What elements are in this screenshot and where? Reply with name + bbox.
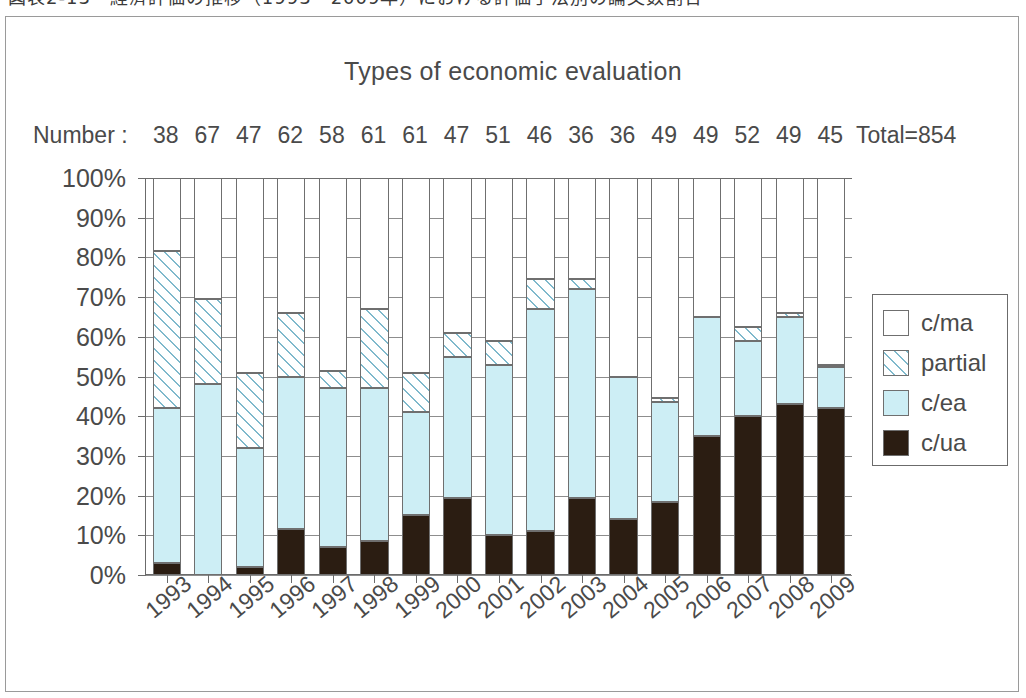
bar-segment-partial <box>319 371 347 389</box>
number-row-values: 3867476258616147514636364949524945 <box>145 122 851 152</box>
y-axis-tick-label: 70% <box>76 283 126 312</box>
bar-segment-c-ea <box>609 377 637 520</box>
stacked-bar[interactable] <box>776 178 804 575</box>
bar-segment-c-ea <box>153 408 181 563</box>
stacked-bar[interactable] <box>153 178 181 575</box>
bar-segment-partial <box>443 333 471 357</box>
stacked-bar[interactable] <box>651 178 679 575</box>
bar-segment-c-ea <box>360 388 388 541</box>
stacked-bar[interactable] <box>236 178 264 575</box>
bar-slot <box>229 178 271 575</box>
sample-size-value: 38 <box>145 122 187 152</box>
legend-swatch-icon <box>883 430 909 456</box>
stacked-bar[interactable] <box>817 178 845 575</box>
bar-segment-c-ma <box>402 178 430 373</box>
chart-title: Types of economic evaluation <box>0 57 1026 86</box>
bar-segment-c-ea <box>277 377 305 530</box>
figure-caption-text: 図表2-13 経済評価の推移（1993～2009年）における評価手法別の論文数割… <box>8 0 703 9</box>
bar-segment-c-ma <box>443 178 471 333</box>
bar-slot <box>811 178 853 575</box>
bar-segment-c-ma <box>693 178 721 317</box>
bar-segment-c-ma <box>319 178 347 371</box>
bar-segment-c-ua <box>609 519 637 575</box>
bar-slot <box>520 178 562 575</box>
y-axis-tick-label: 60% <box>76 322 126 351</box>
sample-size-value: 61 <box>394 122 436 152</box>
bar-segment-c-ua <box>360 541 388 575</box>
sample-size-value: 45 <box>810 122 852 152</box>
number-row-label: Number : <box>33 122 128 149</box>
legend-swatch-icon <box>883 390 909 416</box>
bar-segment-c-ua <box>651 502 679 575</box>
legend-item-c-ea[interactable]: c/ea <box>883 383 1007 423</box>
stacked-bar[interactable] <box>485 178 513 575</box>
sample-size-row: Number : 3867476258616147514636364949524… <box>0 122 1026 152</box>
bar-segment-partial <box>485 341 513 365</box>
bar-slot <box>644 178 686 575</box>
stacked-bar[interactable] <box>443 178 471 575</box>
stacked-bar[interactable] <box>568 178 596 575</box>
bar-segment-c-ma <box>194 178 222 299</box>
sample-size-value: 67 <box>187 122 229 152</box>
legend-item-partial[interactable]: partial <box>883 343 1007 383</box>
sample-size-value: 36 <box>602 122 644 152</box>
stacked-bar[interactable] <box>194 178 222 575</box>
sample-size-value: 49 <box>768 122 810 152</box>
sample-size-value: 47 <box>228 122 270 152</box>
bar-segment-partial <box>526 279 554 309</box>
x-axis-slot: 2000 <box>436 575 478 645</box>
y-axis-tick-label: 100% <box>62 164 126 193</box>
bar-segment-c-ea <box>402 412 430 515</box>
legend-item-c-ma[interactable]: c/ma <box>883 303 1007 343</box>
x-axis-slot: 2008 <box>768 575 810 645</box>
sample-size-value: 58 <box>311 122 353 152</box>
bar-slot <box>188 178 230 575</box>
bar-segment-c-ea <box>693 317 721 436</box>
bar-segment-c-ea <box>568 289 596 497</box>
bar-segment-c-ua <box>776 404 804 575</box>
stacked-bar[interactable] <box>609 178 637 575</box>
x-axis-slot: 1994 <box>187 575 229 645</box>
legend-label: partial <box>921 349 986 377</box>
sample-size-value: 62 <box>270 122 312 152</box>
x-axis-slot: 2002 <box>519 575 561 645</box>
stacked-bar[interactable] <box>277 178 305 575</box>
stacked-bar[interactable] <box>526 178 554 575</box>
bar-segment-c-ea <box>817 367 845 409</box>
x-axis-slot: 2005 <box>643 575 685 645</box>
stacked-bar[interactable] <box>319 178 347 575</box>
stacked-bar[interactable] <box>360 178 388 575</box>
bar-segment-c-ua <box>485 535 513 575</box>
sample-size-value: 49 <box>685 122 727 152</box>
bar-segment-partial <box>776 313 804 317</box>
bar-segment-c-ua <box>817 408 845 575</box>
bar-slot <box>312 178 354 575</box>
stacked-bar[interactable] <box>402 178 430 575</box>
figure-caption-strip: 図表2-13 経済評価の推移（1993～2009年）における評価手法別の論文数割… <box>0 0 1026 14</box>
bar-segment-partial <box>817 365 845 367</box>
stacked-bar[interactable] <box>734 178 762 575</box>
sample-size-value: 51 <box>477 122 519 152</box>
bar-segment-c-ma <box>817 178 845 365</box>
bar-segment-partial <box>360 309 388 388</box>
legend-swatch-icon <box>883 310 909 336</box>
bar-segment-c-ea <box>319 388 347 547</box>
y-axis-tick-label: 10% <box>76 521 126 550</box>
bar-segment-c-ma <box>651 178 679 398</box>
y-axis-tick-label: 20% <box>76 481 126 510</box>
bar-segment-c-ua <box>443 498 471 575</box>
bar-slot <box>561 178 603 575</box>
bar-segment-partial <box>402 373 430 413</box>
y-axis-tick-label: 30% <box>76 441 126 470</box>
bar-slot <box>478 178 520 575</box>
bar-segment-partial <box>153 251 181 408</box>
stacked-bar[interactable] <box>693 178 721 575</box>
x-axis-slot: 2006 <box>685 575 727 645</box>
bar-slot <box>354 178 396 575</box>
y-axis-tick-label: 50% <box>76 362 126 391</box>
bar-segment-c-ua <box>734 416 762 575</box>
y-axis: 100%90%80%70%60%50%40%30%20%10%0% <box>0 178 138 575</box>
sample-size-value: 49 <box>643 122 685 152</box>
bar-segment-c-ma <box>568 178 596 279</box>
legend-item-c-ua[interactable]: c/ua <box>883 423 1007 463</box>
